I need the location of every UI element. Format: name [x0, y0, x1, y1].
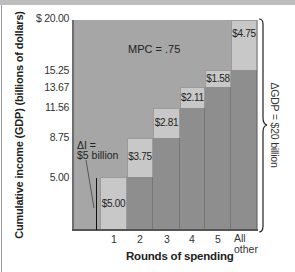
delta-gdp-annotation: ΔGDP = $20 billion: [269, 82, 281, 167]
delta-i-leader-line: [0, 0, 295, 272]
